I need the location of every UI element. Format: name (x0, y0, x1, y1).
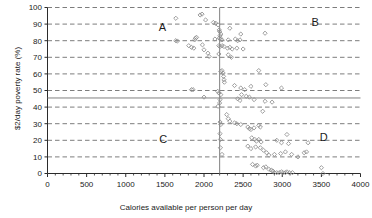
data-point (239, 93, 243, 97)
caption-continuation (0, 212, 372, 218)
y-tick-label: 0 (38, 169, 43, 178)
data-point (290, 152, 294, 156)
x-axis-title: Calories available per person per day (0, 203, 372, 212)
data-point (232, 83, 236, 87)
data-point (285, 132, 289, 136)
x-tick-label: 0 (45, 180, 50, 189)
quadrant-label-c: C (159, 133, 167, 145)
data-point (225, 112, 229, 116)
axis-frame-group (45, 8, 361, 178)
gridlines-group (48, 8, 361, 157)
quadrant-labels-group: ABCD (159, 16, 328, 144)
scatter-chart-figure: 0102030405060708090100050010001500200025… (0, 0, 372, 218)
y-tick-label: 100 (29, 3, 43, 12)
data-point (264, 83, 268, 87)
data-point (200, 43, 204, 47)
x-tick-label: 2000 (195, 180, 213, 189)
quadrant-label-d: D (320, 131, 328, 143)
data-point (319, 166, 323, 170)
data-point (235, 46, 239, 50)
y-tick-label: 60 (33, 70, 42, 79)
quadrant-label-b: B (311, 16, 318, 28)
data-point (279, 151, 283, 155)
data-point (174, 16, 178, 20)
y-axis-title: $2/day poverty rate (%) (13, 24, 22, 154)
x-tick-label: 2500 (234, 180, 252, 189)
data-point (263, 31, 267, 35)
data-point (270, 100, 274, 104)
data-point (239, 32, 243, 36)
x-tick-label: 3000 (273, 180, 291, 189)
data-point (226, 38, 230, 42)
data-point (218, 137, 222, 141)
data-point (217, 52, 221, 56)
data-point (220, 152, 224, 156)
y-tick-label: 80 (33, 37, 42, 46)
tick-labels-group: 0102030405060708090100050010001500200025… (29, 3, 370, 188)
data-point (263, 99, 267, 103)
x-tick-label: 3500 (312, 180, 330, 189)
data-point (283, 150, 287, 154)
data-point (306, 141, 310, 145)
data-point (218, 146, 222, 150)
data-point (272, 152, 276, 156)
data-point (254, 145, 258, 149)
x-tick-label: 1500 (156, 180, 174, 189)
y-tick-label: 90 (33, 20, 42, 29)
data-point (249, 84, 253, 88)
data-point (261, 109, 265, 113)
data-point (241, 47, 245, 51)
data-point (279, 141, 283, 145)
data-point (202, 95, 206, 99)
data-point (202, 48, 206, 52)
data-point (286, 142, 290, 146)
data-point (187, 44, 191, 48)
y-tick-label: 20 (33, 136, 42, 145)
data-points-group (174, 12, 325, 176)
data-point (239, 122, 243, 126)
data-point (257, 68, 261, 72)
data-point (203, 18, 207, 22)
y-tick-label: 10 (33, 153, 42, 162)
y-tick-label: 70 (33, 53, 42, 62)
quadrant-label-a: A (159, 21, 167, 33)
y-tick-label: 30 (33, 120, 42, 129)
chart-canvas: 0102030405060708090100050010001500200025… (0, 0, 372, 218)
data-point (228, 26, 232, 30)
x-tick-label: 500 (80, 180, 94, 189)
x-tick-label: 1000 (117, 180, 135, 189)
y-tick-label: 40 (33, 103, 42, 112)
data-point (279, 86, 283, 90)
y-tick-label: 50 (33, 86, 42, 95)
x-tick-label: 4000 (352, 180, 370, 189)
